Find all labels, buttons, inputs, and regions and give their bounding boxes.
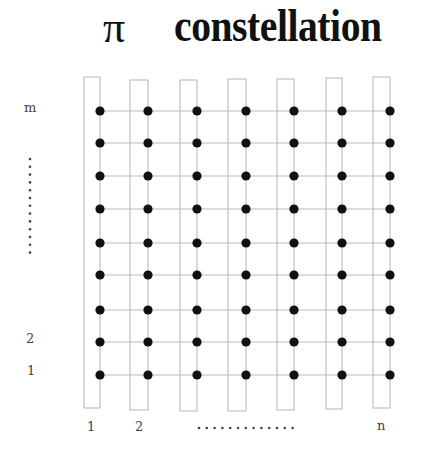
constellation-point	[337, 204, 346, 213]
constellation-point	[337, 305, 346, 314]
constellation-point	[289, 305, 298, 314]
constellation-point	[241, 106, 250, 115]
constellation-point	[95, 270, 104, 279]
constellation-point	[289, 138, 298, 147]
constellation-point	[289, 270, 298, 279]
constellation-point	[241, 204, 250, 213]
constellation-point	[337, 138, 346, 147]
constellation-point	[385, 305, 394, 314]
constellation-point	[192, 270, 201, 279]
horizontal-ellipsis-icon	[198, 427, 294, 430]
constellation-point	[241, 337, 250, 346]
constellation-point	[385, 171, 394, 180]
constellation-point	[289, 204, 298, 213]
row-label-2: 2	[26, 331, 34, 346]
constellation-point	[385, 106, 394, 115]
row-label-1: 1	[27, 363, 35, 378]
constellation-point	[192, 337, 201, 346]
constellation-point	[192, 204, 201, 213]
constellation-point	[241, 305, 250, 314]
constellation-point	[337, 337, 346, 346]
constellation-point	[385, 270, 394, 279]
constellation-point	[289, 238, 298, 247]
constellation-point	[241, 138, 250, 147]
constellation-point	[95, 204, 104, 213]
vertical-ellipsis-icon	[29, 158, 32, 254]
col-label-n: n	[377, 418, 386, 433]
constellation-point	[95, 238, 104, 247]
constellation-point	[289, 106, 298, 115]
constellation-point	[95, 305, 104, 314]
constellation-point	[385, 138, 394, 147]
constellation-point	[143, 337, 152, 346]
constellation-point	[95, 138, 104, 147]
constellation-point	[192, 171, 201, 180]
constellation-point	[192, 238, 201, 247]
constellation-point	[289, 337, 298, 346]
constellation-point	[95, 337, 104, 346]
constellation-point	[337, 106, 346, 115]
constellation-point	[337, 270, 346, 279]
constellation-point	[143, 138, 152, 147]
constellation-point	[143, 370, 152, 379]
constellation-point	[143, 106, 152, 115]
constellation-point	[289, 370, 298, 379]
constellation-point	[337, 171, 346, 180]
constellation-point	[241, 171, 250, 180]
constellation-point	[192, 106, 201, 115]
constellation-point	[241, 370, 250, 379]
constellation-point	[143, 238, 152, 247]
constellation-point	[385, 238, 394, 247]
constellation-point	[385, 337, 394, 346]
constellation-point	[337, 238, 346, 247]
constellation-point	[95, 106, 104, 115]
constellation-point	[143, 171, 152, 180]
constellation-point	[241, 270, 250, 279]
col-label-2: 2	[135, 419, 143, 434]
constellation-point	[143, 270, 152, 279]
constellation-point	[337, 370, 346, 379]
constellation-point	[95, 370, 104, 379]
constellation-point	[192, 138, 201, 147]
constellation-grid: m 2 1 1 2 n	[0, 0, 428, 456]
constellation-point	[385, 370, 394, 379]
constellation-point	[192, 370, 201, 379]
constellation-point	[143, 305, 152, 314]
constellation-point	[385, 204, 394, 213]
constellation-point	[95, 171, 104, 180]
row-label-m: m	[24, 100, 36, 115]
constellation-point	[241, 238, 250, 247]
constellation-point	[289, 171, 298, 180]
col-label-1: 1	[87, 419, 95, 434]
constellation-point	[143, 204, 152, 213]
constellation-point	[192, 305, 201, 314]
